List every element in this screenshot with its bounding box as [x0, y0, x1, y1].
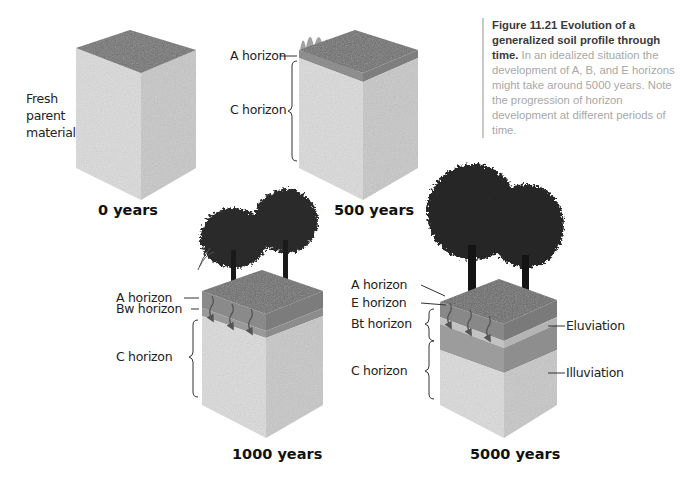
- block-500-years: [280, 30, 418, 200]
- label-bw-horizon: Bw horizon: [116, 301, 182, 316]
- bracket-c-horizon: [189, 320, 198, 397]
- time-label-1000-years: 1000 years: [232, 446, 322, 462]
- bracket-bt-horizon: [425, 309, 434, 341]
- label-bt-horizon: Bt horizon: [351, 316, 412, 331]
- block-0-years: [76, 30, 196, 200]
- label-c-horizon: C horizon: [230, 102, 286, 117]
- block-1000-years: [184, 189, 323, 438]
- bracket-c-horizon: [288, 61, 297, 161]
- label-line: parent: [26, 107, 76, 124]
- time-label-500-years: 500 years: [334, 202, 414, 218]
- leader-line: [421, 285, 445, 296]
- fresh-parent-material-label: Fresh parent material: [26, 90, 76, 141]
- caption-body: In an idealized situation the developmen…: [492, 49, 675, 136]
- soil-profile-diagram: Figure 11.21 Evolution of a generalized …: [0, 0, 680, 482]
- label-line: Fresh: [26, 90, 76, 107]
- caption-figure-number: Figure 11.21: [492, 19, 557, 31]
- label-c-horizon: C horizon: [351, 363, 407, 378]
- label-a-horizon: A horizon: [351, 277, 407, 292]
- bracket-c-horizon: [425, 341, 434, 399]
- figure-caption: Figure 11.21 Evolution of a generalized …: [482, 18, 680, 138]
- label-illuviation: Illuviation: [566, 365, 624, 380]
- label-a-horizon: A horizon: [230, 48, 286, 63]
- block-5000-years: [421, 164, 565, 438]
- time-label-0-years: 0 years: [98, 202, 158, 218]
- time-label-5000-years: 5000 years: [470, 446, 560, 462]
- label-c-horizon: C horizon: [116, 349, 172, 364]
- label-line: material: [26, 124, 76, 141]
- label-eluviation: Eluviation: [566, 318, 625, 333]
- label-e-horizon: E horizon: [351, 295, 407, 310]
